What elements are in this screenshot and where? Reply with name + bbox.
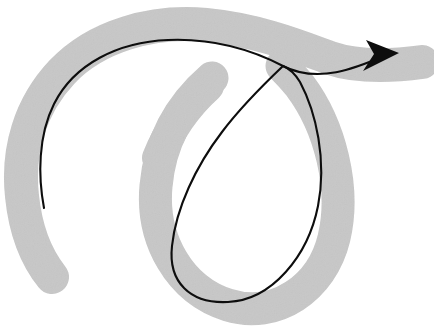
figure-canvas: Spiral gesture path with arrowhead <box>0 0 434 333</box>
spiral-gesture-diagram <box>0 0 434 333</box>
